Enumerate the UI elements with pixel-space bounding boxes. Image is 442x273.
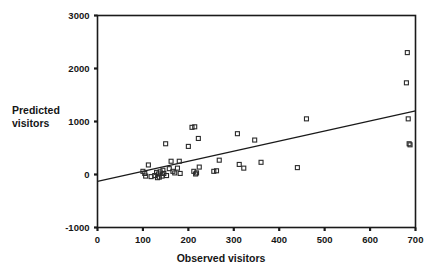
data-point-marker [404,81,408,85]
x-tick-label: 300 [214,234,254,245]
data-point-marker [259,160,263,164]
x-tick-label: 500 [305,234,345,245]
data-point-marker [235,132,239,136]
data-point-marker [405,51,409,55]
y-tick-label: 0 [48,169,90,180]
data-point-marker [217,158,221,162]
data-point-marker [295,166,299,170]
x-tick-label: 400 [259,234,299,245]
data-point-marker [169,159,173,163]
data-point-marker [186,144,190,148]
data-point-marker [178,171,182,175]
y-tick-label: 2000 [48,63,90,74]
data-point-marker [237,162,241,166]
x-tick-label: 0 [78,234,118,245]
data-point-marker [146,163,150,167]
data-point-marker [196,136,200,140]
y-tick-label: 3000 [48,10,90,21]
data-point-marker [253,138,257,142]
data-point-marker [175,166,179,170]
x-tick-label: 200 [168,234,208,245]
x-tick-label: 100 [123,234,163,245]
x-tick-label: 600 [350,234,390,245]
y-tick-label: -1000 [48,222,90,233]
data-point-marker [406,117,410,121]
data-point-group [141,51,412,180]
data-point-marker [304,117,308,121]
data-point-marker [197,165,201,169]
data-point-marker [242,166,246,170]
y-tick-label: 1000 [48,116,90,127]
scatter-plot-figure: Predicted visitors Observed visitors -10… [0,0,442,273]
data-point-marker [164,142,168,146]
x-tick-label: 700 [396,234,436,245]
